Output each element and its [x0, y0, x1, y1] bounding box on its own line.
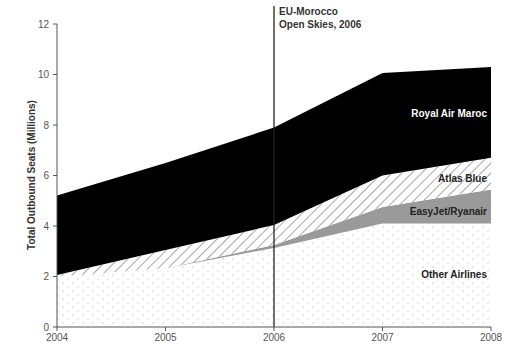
y-tick-label: 8	[43, 120, 49, 131]
x-tick-label: 2006	[263, 332, 286, 343]
y-tick-label: 10	[38, 69, 50, 80]
y-tick-label: 0	[43, 322, 49, 333]
y-axis-title: Total Outbound Seats (Millions)	[26, 100, 37, 250]
y-tick-label: 4	[43, 221, 49, 232]
x-tick-label: 2005	[154, 332, 177, 343]
y-tick-label: 6	[43, 170, 49, 181]
x-tick-label: 2004	[46, 332, 69, 343]
y-tick-label: 12	[38, 19, 50, 30]
y-tick-label: 2	[43, 271, 49, 282]
label-royal-air-maroc: Royal Air Maroc	[411, 108, 487, 119]
stacked-area-chart: EU-Morocco Open Skies, 2006 024681012200…	[0, 0, 523, 361]
x-tick-label: 2008	[480, 332, 503, 343]
annotation-line-2: Open Skies, 2006	[279, 19, 362, 30]
x-tick-label: 2007	[371, 332, 394, 343]
label-easyjet-ryanair: EasyJet/Ryanair	[410, 206, 487, 217]
label-other-airlines: Other Airlines	[421, 269, 487, 280]
label-atlas-blue: Atlas Blue	[438, 173, 487, 184]
annotation-line-1: EU-Morocco	[279, 6, 338, 17]
